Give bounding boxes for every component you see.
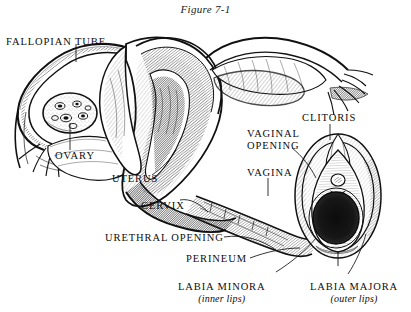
label-clitoris: CLITORIS [302,112,356,123]
label-ovary: OVARY [55,150,95,161]
label-cervix: CERVIX [141,200,185,211]
label-vagina: VAGINA [247,167,292,178]
right-adnexa [206,38,373,115]
label-labia-majora-sub: (outer lips) [310,293,398,305]
label-labia-minora-main: LABIA MINORA [178,281,266,292]
label-fallopian-tube: FALLOPIAN TUBE [6,36,106,47]
label-labia-majora-main: LABIA MAJORA [310,281,398,292]
label-vaginal-opening-line1: VAGINAL [247,128,300,140]
label-labia-majora: LABIA MAJORA (outer lips) [310,281,398,304]
label-urethral-opening: URETHRAL OPENING [105,232,224,243]
label-vaginal-opening: VAGINAL OPENING [247,128,300,151]
figure-page: Figure 7-1 [0,0,411,312]
label-vaginal-opening-line2: OPENING [247,140,300,152]
label-labia-minora: LABIA MINORA (inner lips) [178,281,266,304]
label-perineum: PERINEUM [186,253,247,264]
label-uterus: UTERUS [112,173,158,184]
label-labia-minora-sub: (inner lips) [178,293,266,305]
